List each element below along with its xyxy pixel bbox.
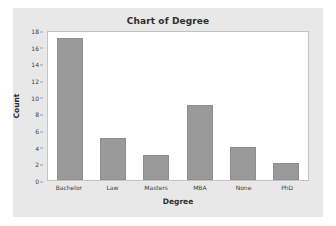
x-axis-tick: Masters: [134, 184, 178, 191]
chart-figure: Chart of Degree Count 181614121086420 Ba…: [13, 8, 323, 217]
y-axis-tick: 6: [35, 128, 39, 135]
bar[interactable]: [57, 38, 83, 180]
x-axis-tick: Law: [91, 184, 135, 191]
y-axis-tick: 12: [31, 78, 39, 85]
bar[interactable]: [273, 163, 299, 180]
y-axis-tick: 0: [35, 178, 39, 185]
bar-slot: [48, 32, 91, 180]
y-axis-tick: 8: [35, 111, 39, 118]
y-axis-tick: 16: [31, 44, 39, 51]
x-axis-tick: MBA: [178, 184, 222, 191]
y-axis-tick: 18: [31, 28, 39, 35]
x-axis-title: Degree: [47, 197, 309, 206]
y-axis-tick: 10: [31, 94, 39, 101]
bars-layer: [48, 32, 308, 180]
bar[interactable]: [230, 147, 256, 180]
x-axis-tick: Bachelor: [47, 184, 91, 191]
bar[interactable]: [143, 155, 169, 180]
bar[interactable]: [100, 138, 126, 180]
bar-slot: [221, 32, 264, 180]
bar[interactable]: [187, 105, 213, 180]
chart-title: Chart of Degree: [13, 16, 323, 26]
x-axis-tick-labels: BachelorLawMastersMBANonePhD: [47, 184, 309, 191]
y-axis-tick-labels: 181614121086420: [13, 31, 44, 181]
bar-slot: [178, 32, 221, 180]
bar-slot: [91, 32, 134, 180]
x-axis-tick: PhD: [265, 184, 309, 191]
bar-slot: [135, 32, 178, 180]
plot-area: [47, 31, 309, 181]
y-axis-tick: 14: [31, 61, 39, 68]
x-axis-tick: None: [222, 184, 266, 191]
y-axis-tick: 2: [35, 161, 39, 168]
y-axis-tick: 4: [35, 144, 39, 151]
bar-slot: [265, 32, 308, 180]
